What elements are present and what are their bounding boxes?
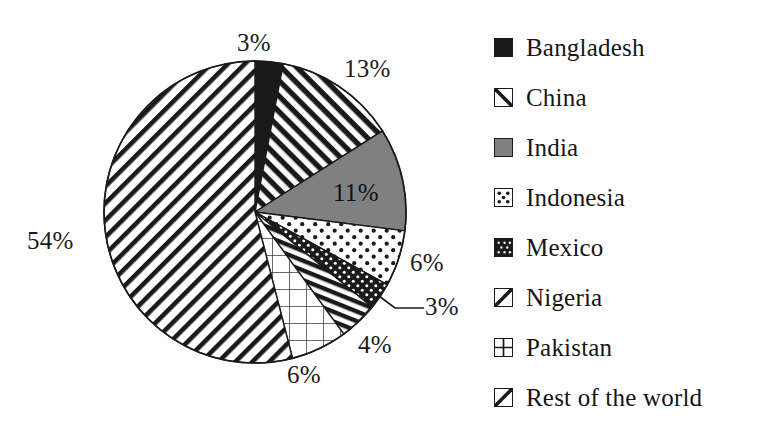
pie-chart-figure: 3% 13% 11% 6% 3% 4% 6% 54% Bangladesh Ch…: [0, 0, 783, 440]
legend-item-nigeria: Nigeria: [494, 272, 779, 322]
legend-swatch-indonesia-icon: [494, 188, 513, 207]
legend-swatch-mexico-icon: [494, 238, 513, 257]
legend-item-mexico: Mexico: [494, 222, 779, 272]
legend-swatch-nigeria-icon: [494, 288, 513, 307]
legend-swatch-china-icon: [494, 88, 513, 107]
pct-label-indonesia: 6%: [410, 250, 444, 275]
legend-swatch-india-icon: [494, 138, 513, 157]
legend-item-pakistan: Pakistan: [494, 322, 779, 372]
chart-legend: Bangladesh China India: [494, 22, 779, 422]
legend-label-indonesia: Indonesia: [526, 185, 625, 210]
legend-label-bangladesh: Bangladesh: [526, 35, 645, 60]
legend-label-nigeria: Nigeria: [526, 285, 602, 310]
pct-label-china: 13%: [344, 56, 391, 81]
pct-label-mexico: 3%: [425, 294, 459, 319]
pct-label-bangladesh: 3%: [237, 30, 271, 55]
legend-item-rest-of-the-world: Rest of the world: [494, 372, 779, 422]
legend-item-bangladesh: Bangladesh: [494, 22, 779, 72]
legend-label-pakistan: Pakistan: [526, 335, 612, 360]
pct-label-pakistan: 6%: [287, 362, 321, 387]
pie-chart-svg: [0, 0, 480, 440]
leader-line-mexico: [379, 296, 424, 308]
pie-chart-plot-area: 3% 13% 11% 6% 3% 4% 6% 54%: [0, 0, 480, 440]
legend-label-india: India: [526, 135, 578, 160]
legend-item-india: India: [494, 122, 779, 172]
legend-label-mexico: Mexico: [526, 235, 604, 260]
legend-item-indonesia: Indonesia: [494, 172, 779, 222]
legend-label-china: China: [526, 85, 587, 110]
legend-swatch-pakistan-icon: [494, 338, 513, 357]
pct-label-rest-of-the-world: 54%: [27, 228, 74, 253]
legend-item-china: China: [494, 72, 779, 122]
legend-swatch-bangladesh-icon: [494, 38, 513, 57]
pct-label-nigeria: 4%: [358, 332, 392, 357]
pct-label-india: 11%: [333, 180, 379, 205]
legend-swatch-rest-of-the-world-icon: [494, 388, 513, 407]
legend-label-rest-of-the-world: Rest of the world: [526, 385, 702, 410]
